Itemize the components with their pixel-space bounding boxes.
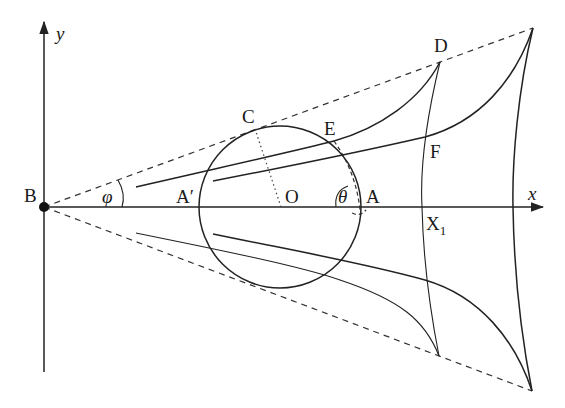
label-C: C [242, 106, 255, 127]
label-F: F [430, 141, 441, 162]
curve-D-X1 [422, 62, 440, 356]
angle-phi-arc [118, 180, 123, 207]
label-O: O [285, 186, 299, 207]
right-boundary-curve [513, 28, 533, 391]
small-arc-A [352, 210, 366, 214]
label-X1-sub: 1 [440, 223, 447, 238]
label-D: D [434, 35, 448, 56]
upper-tangent-line [44, 28, 533, 207]
label-X1-main: X [426, 213, 440, 234]
upper-curve-1 [136, 62, 440, 187]
label-y: y [54, 23, 65, 44]
point-B [39, 202, 49, 212]
label-X1: X1 [426, 213, 446, 238]
label-A: A [366, 186, 380, 207]
lower-tangent-line [44, 207, 532, 391]
lower-curve-1 [136, 233, 439, 356]
label-E: E [324, 118, 336, 139]
label-x: x [527, 183, 537, 204]
label-B: B [24, 185, 37, 206]
geometry-diagram: y x B φ A′ C E O θ A D F X1 [0, 0, 565, 408]
lower-curve-2 [213, 234, 532, 391]
label-theta: θ [338, 186, 347, 207]
label-A-prime: A′ [176, 186, 194, 207]
label-phi: φ [102, 186, 113, 207]
